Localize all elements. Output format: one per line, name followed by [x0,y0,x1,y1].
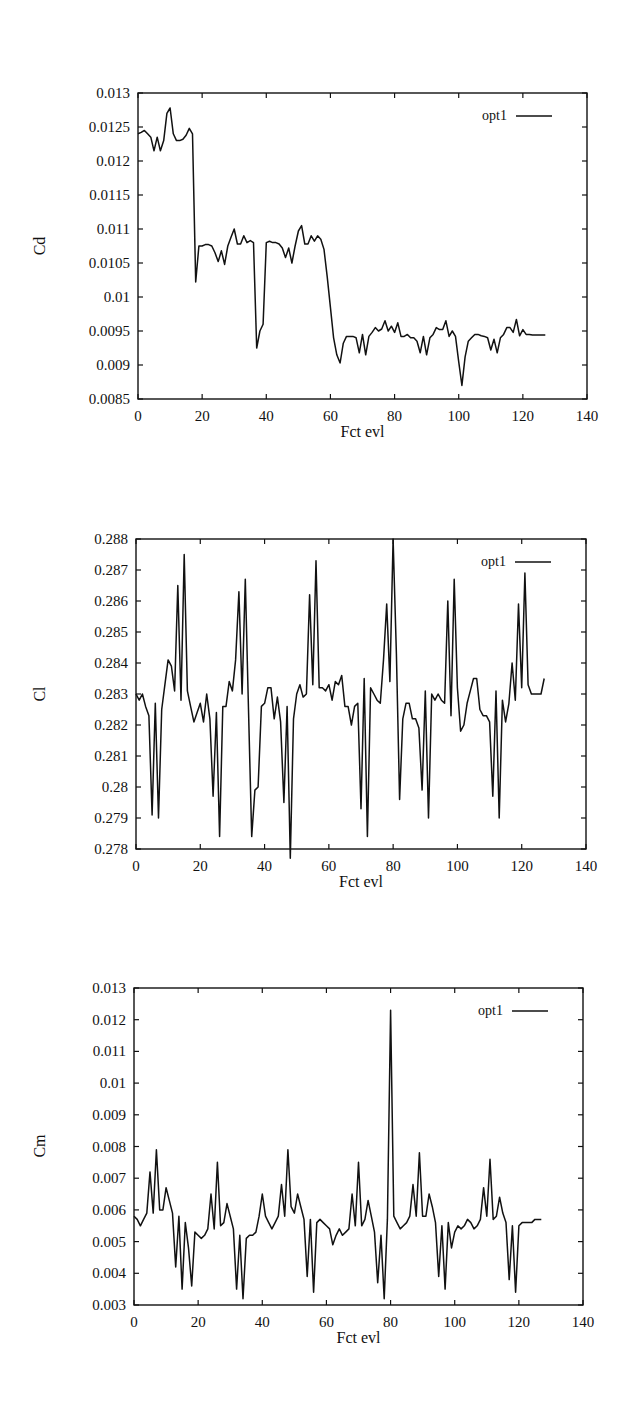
y-tick-label: 0.012 [96,153,130,169]
y-tick-label: 0.0085 [89,391,130,407]
y-tick-label: 0.01 [100,1075,126,1091]
x-axis-title: Fct evl [341,423,386,440]
cd-plot: 0.00850.0090.00950.010.01050.0110.01150.… [0,0,621,460]
cm-plot: 0.0030.0040.0050.0060.0070.0080.0090.010… [0,920,621,1405]
y-tick-label: 0.284 [94,655,128,671]
x-tick-label: 140 [572,1314,595,1330]
x-tick-label: 120 [512,408,535,424]
y-axis-title: Cl [31,686,48,702]
x-tick-label: 80 [387,408,402,424]
x-tick-label: 40 [257,858,272,874]
y-tick-label: 0.278 [94,841,128,857]
y-tick-label: 0.286 [94,593,128,609]
x-axis-title: Fct evl [339,873,384,890]
series-line-opt1 [138,108,545,385]
x-tick-label: 140 [575,858,598,874]
y-tick-label: 0.281 [94,748,128,764]
y-tick-label: 0.012 [92,1012,126,1028]
x-tick-label: 40 [259,408,274,424]
y-tick-label: 0.01 [104,289,130,305]
x-tick-label: 0 [132,858,140,874]
y-tick-label: 0.004 [92,1265,126,1281]
y-tick-label: 0.0115 [89,187,130,203]
series-line-opt1 [136,539,544,858]
y-tick-label: 0.007 [92,1170,126,1186]
series-line-opt1 [134,1010,541,1298]
y-tick-label: 0.009 [96,357,130,373]
y-tick-label: 0.008 [92,1139,126,1155]
x-tick-label: 100 [443,1314,466,1330]
legend-label: opt1 [482,108,507,123]
y-tick-label: 0.288 [94,531,128,547]
legend-label: opt1 [481,554,506,569]
y-tick-label: 0.282 [94,717,128,733]
x-axis-title: Fct evl [337,1329,382,1346]
y-tick-label: 0.287 [94,562,128,578]
y-tick-label: 0.0125 [89,119,130,135]
cl-plot: 0.2780.2790.280.2810.2820.2830.2840.2850… [0,460,621,920]
y-tick-label: 0.279 [94,810,128,826]
x-tick-label: 80 [386,858,401,874]
y-tick-label: 0.283 [94,686,128,702]
plot-frame [134,988,583,1305]
cm-chart: 0.0030.0040.0050.0060.0070.0080.0090.010… [0,920,621,1405]
x-tick-label: 100 [446,858,469,874]
cl-chart: 0.2780.2790.280.2810.2820.2830.2840.2850… [0,460,621,920]
y-tick-label: 0.011 [93,1043,126,1059]
y-tick-label: 0.003 [92,1297,126,1313]
x-tick-label: 80 [383,1314,398,1330]
x-tick-label: 20 [193,858,208,874]
x-tick-label: 0 [134,408,142,424]
y-tick-label: 0.005 [92,1234,126,1250]
x-tick-label: 60 [321,858,336,874]
x-tick-label: 60 [319,1314,334,1330]
x-tick-label: 140 [576,408,599,424]
x-tick-label: 60 [323,408,338,424]
x-tick-label: 120 [510,858,533,874]
plot-frame [138,93,587,399]
x-tick-label: 40 [255,1314,270,1330]
y-tick-label: 0.28 [102,779,128,795]
x-tick-label: 0 [130,1314,138,1330]
x-tick-label: 120 [508,1314,531,1330]
x-tick-label: 100 [447,408,470,424]
y-tick-label: 0.006 [92,1202,126,1218]
y-tick-label: 0.0105 [89,255,130,271]
legend-label: opt1 [478,1003,503,1018]
y-axis-title: Cd [31,237,48,256]
x-tick-label: 20 [191,1314,206,1330]
cd-chart: 0.00850.0090.00950.010.01050.0110.01150.… [0,0,621,460]
y-tick-label: 0.011 [97,221,130,237]
y-axis-title: Cm [31,1134,48,1158]
y-tick-label: 0.0095 [89,323,130,339]
y-tick-label: 0.009 [92,1107,126,1123]
x-tick-label: 20 [195,408,210,424]
y-tick-label: 0.285 [94,624,128,640]
y-tick-label: 0.013 [96,85,130,101]
y-tick-label: 0.013 [92,980,126,996]
